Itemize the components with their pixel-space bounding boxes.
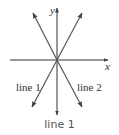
caption: line 1 bbox=[0, 118, 119, 131]
x-axis-label: x bbox=[104, 60, 110, 72]
line-1 bbox=[57, 13, 82, 60]
line-2-label: line 2 bbox=[77, 81, 102, 93]
coordinate-diagram: y x line 1 line 2 bbox=[0, 0, 119, 118]
line-2 bbox=[33, 13, 57, 60]
y-axis-label: y bbox=[49, 4, 55, 16]
line-1-label: line 1 bbox=[16, 81, 41, 93]
